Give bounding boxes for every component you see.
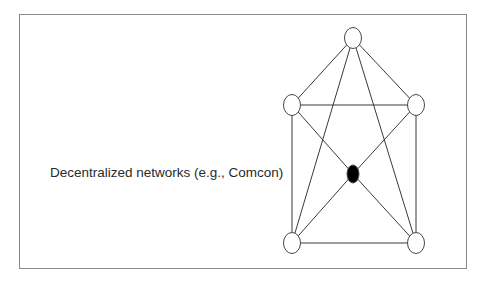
edge-top-bottom-right bbox=[353, 38, 416, 243]
edge-left-center bbox=[292, 105, 353, 174]
network-graph bbox=[0, 0, 480, 286]
graph-edges bbox=[292, 38, 416, 243]
node-top bbox=[345, 28, 362, 49]
edge-top-right bbox=[353, 38, 416, 105]
edge-center-bottom-left bbox=[292, 174, 353, 243]
node-bottom-right bbox=[408, 233, 425, 254]
node-center bbox=[347, 165, 359, 183]
edge-top-bottom-left bbox=[292, 38, 353, 243]
node-right bbox=[408, 95, 425, 116]
node-left bbox=[284, 95, 301, 116]
edge-center-bottom-right bbox=[353, 174, 416, 243]
node-bottom-left bbox=[284, 233, 301, 254]
edge-top-left bbox=[292, 38, 353, 105]
edge-right-center bbox=[353, 105, 416, 174]
graph-nodes bbox=[284, 28, 425, 254]
